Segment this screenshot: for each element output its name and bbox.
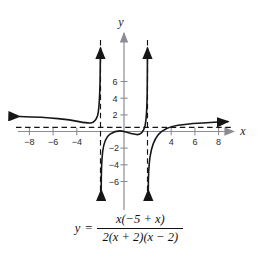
x-tick-label: −8: [24, 137, 34, 147]
x-tick-labels: −8 −6 −4 4 6 8: [24, 137, 221, 147]
curve-left-branch: [20, 48, 101, 123]
axis-lines: [18, 33, 234, 210]
equation-denominator: 2(x + 2)(x − 2): [97, 228, 183, 245]
equation-numerator: x(−5 + x): [111, 212, 170, 228]
y-tick-label: 4: [112, 94, 117, 104]
rational-function-graph: −8 −6 −4 4 6 8 6 4 2 −2 −4 −6 x y: [0, 0, 258, 218]
x-tick-label: −4: [72, 137, 82, 147]
x-tick-label: 8: [216, 137, 221, 147]
x-tick-label: 4: [169, 137, 174, 147]
y-tick-label: 6: [112, 77, 117, 87]
y-tick-label: −6: [109, 177, 119, 187]
x-tick-label: −6: [48, 137, 58, 147]
equation-lhs: y: [75, 221, 81, 236]
x-axis-label: x: [239, 124, 246, 138]
figure-container: −8 −6 −4 4 6 8 6 4 2 −2 −4 −6 x y: [0, 0, 258, 258]
equation-fraction: x(−5 + x) 2(x + 2)(x − 2): [97, 212, 183, 245]
y-tick-label: −2: [109, 143, 119, 153]
equation-caption: y = x(−5 + x) 2(x + 2)(x − 2): [0, 212, 258, 245]
y-tick-label: 2: [112, 110, 117, 120]
y-tick-label: −4: [109, 160, 119, 170]
y-axis-label: y: [117, 15, 124, 29]
x-tick-label: 6: [192, 137, 197, 147]
equation-equals-sign: =: [85, 221, 92, 236]
